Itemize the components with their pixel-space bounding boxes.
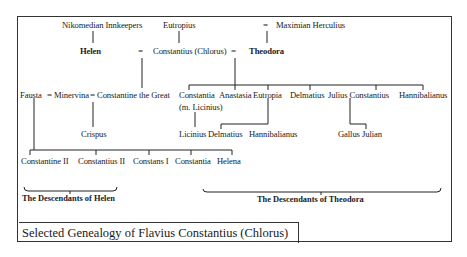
constantine-ii: Constantine II [21, 156, 69, 166]
eutropius: Eutropius [163, 20, 196, 30]
marriage-sign-helen-constantius: = [138, 46, 143, 56]
crispus: Crispus [81, 129, 107, 139]
fausta: Fausta [20, 90, 42, 100]
constantia-daughter: Constantia [175, 156, 211, 166]
constantia-marriage-note: (m. Licinius) [179, 102, 223, 112]
gallus: Gallus [338, 129, 360, 139]
constantius-ii: Constantius II [78, 156, 125, 166]
anastasia: Anastasia [219, 90, 252, 100]
marriage-sign-constantius-theodora: = [231, 46, 236, 56]
constans-i: Constans I [133, 156, 169, 166]
theodora: Theodora [249, 46, 284, 56]
constantine-the-great: Constantine the Great [97, 90, 170, 100]
delmatius-son: Delmatius [208, 129, 242, 139]
marriage-sign-maximian: = [263, 20, 268, 30]
marriage-sign-fausta-minervina: = [47, 90, 52, 100]
figure-caption: Selected Genealogy of Flavius Constantiu… [19, 222, 299, 243]
delmatius: Delmatius [290, 90, 324, 100]
hannibalianus-son: Hannibalianus [249, 129, 297, 139]
hannibalianus: Hannibalianus [399, 90, 447, 100]
licinius: Licinius [179, 129, 206, 139]
nikomedian-innkeepers: Nikomedian Innkeepers [62, 20, 142, 30]
descendants-of-theodora-label: The Descendants of Theodora [257, 195, 364, 204]
eutropia: Eutropia [253, 90, 282, 100]
constantia: Constantia [179, 90, 215, 100]
helena: Helena [217, 156, 241, 166]
minervina: Minervina [54, 90, 89, 100]
julius-constantius: Julius Constantius [328, 90, 389, 100]
julian: Julian [362, 129, 382, 139]
maximian-herculius: Maximian Herculius [276, 20, 345, 30]
marriage-sign-minervina-constantine: = [90, 90, 95, 100]
constantius-chlorus: Constantius (Chlorus) [153, 46, 227, 56]
helen: Helen [80, 46, 101, 56]
descendants-of-helen-label: The Descendants of Helen [22, 194, 115, 203]
